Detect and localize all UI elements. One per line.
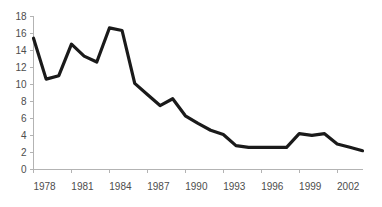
- x-tick-label: 1978: [33, 181, 56, 192]
- chart-canvas: 024681012141618 197819811984198719901993…: [0, 0, 382, 207]
- x-axis: 197819811984198719901993199619992002: [33, 170, 362, 192]
- line-chart: 024681012141618 197819811984198719901993…: [0, 0, 382, 207]
- y-tick-label: 10: [15, 79, 27, 90]
- x-tick-label: 1990: [185, 181, 208, 192]
- x-tick-label-group: 197819811984198719901993199619992002: [33, 181, 359, 192]
- x-tick-label: 1987: [147, 181, 170, 192]
- x-tick-label: 1981: [71, 181, 94, 192]
- x-tick-group: [34, 170, 338, 174]
- x-tick-label: 1993: [223, 181, 246, 192]
- x-tick-label: 1996: [261, 181, 284, 192]
- y-tick-label: 2: [21, 147, 27, 158]
- y-axis: 024681012141618: [15, 11, 33, 176]
- y-tick-label: 14: [15, 45, 27, 56]
- y-tick-label: 0: [21, 164, 27, 175]
- plot-area: [34, 28, 363, 151]
- y-tick-label: 6: [21, 113, 27, 124]
- x-tick-label: 1999: [299, 181, 322, 192]
- data-series-line: [34, 28, 363, 151]
- y-tick-label-group: 024681012141618: [15, 11, 27, 176]
- x-tick-label: 2002: [337, 181, 360, 192]
- y-tick-label: 12: [15, 62, 27, 73]
- y-tick-label: 16: [15, 28, 27, 39]
- y-tick-label: 4: [21, 130, 27, 141]
- x-tick-label: 1984: [109, 181, 132, 192]
- y-tick-label: 18: [15, 11, 27, 22]
- y-tick-label: 8: [21, 96, 27, 107]
